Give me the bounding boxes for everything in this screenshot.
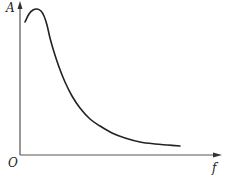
y-axis-arrow-icon (18, 1, 23, 9)
y-axis-label: A (6, 2, 15, 14)
origin-label: O (8, 157, 18, 169)
x-axis-label: f (212, 162, 216, 174)
x-axis-arrow-icon (213, 153, 222, 158)
amplitude-frequency-chart: A O f (0, 0, 228, 181)
amplitude-curve (25, 9, 180, 146)
chart-canvas (0, 0, 228, 181)
